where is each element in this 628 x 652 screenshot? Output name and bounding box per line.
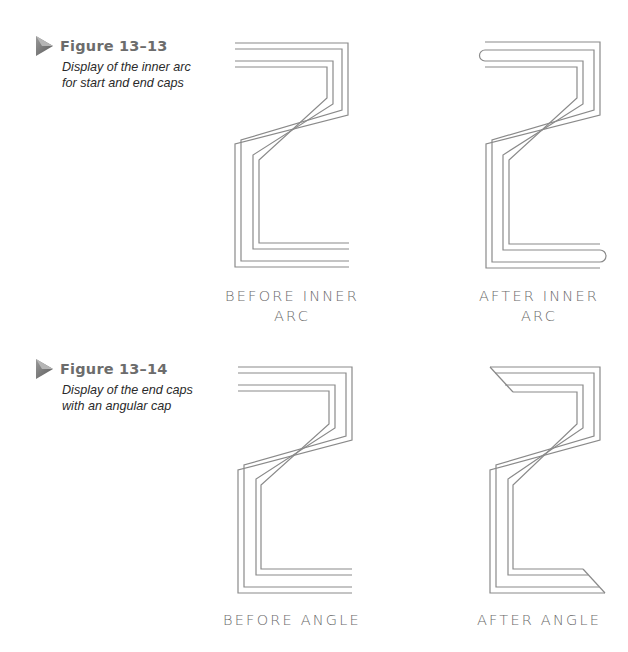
multiline-z-after-inner-arc <box>480 42 606 268</box>
label-line: BEFORE ANGLE <box>207 610 377 630</box>
label-after-angle: AFTER ANGLE <box>454 610 624 630</box>
label-before-inner-arc: BEFORE INNER ARC <box>207 286 377 326</box>
label-line: AFTER INNER <box>454 286 624 306</box>
multiline-z-after-angle <box>490 367 605 593</box>
label-line: ARC <box>454 306 624 326</box>
cad-drawings-clean <box>0 0 628 652</box>
label-before-angle: BEFORE ANGLE <box>207 610 377 630</box>
label-after-inner-arc: AFTER INNER ARC <box>454 286 624 326</box>
label-line: ARC <box>207 306 377 326</box>
inner-arc-end-cap <box>600 250 606 262</box>
multiline-z-before-inner-arc <box>235 43 349 267</box>
angle-start-cap <box>490 367 513 392</box>
inner-arc-start-cap <box>480 50 485 61</box>
multiline-z-before-angle <box>238 367 352 593</box>
label-line: AFTER ANGLE <box>454 610 624 630</box>
angle-end-cap <box>583 569 605 593</box>
label-line: BEFORE INNER <box>207 286 377 306</box>
